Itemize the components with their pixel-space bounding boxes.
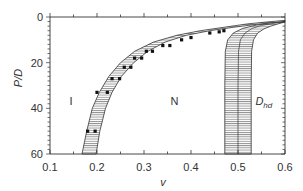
data-point-marker bbox=[106, 91, 109, 94]
x-tick-label: 0.6 bbox=[277, 161, 292, 173]
phase-diagram-chart: 0.10.20.30.40.50.60204060vP/DINDhd bbox=[0, 0, 303, 191]
x-axis-title: v bbox=[160, 176, 167, 188]
hatched-band bbox=[82, 20, 285, 154]
data-point-marker bbox=[161, 44, 164, 47]
data-point-marker bbox=[94, 130, 97, 133]
y-axis-title: P/D bbox=[12, 69, 24, 87]
y-tick-label: 0 bbox=[37, 11, 43, 23]
data-point-marker bbox=[86, 130, 89, 133]
data-point-marker bbox=[118, 77, 121, 80]
region-label: Dhd bbox=[255, 95, 272, 110]
data-point-marker bbox=[129, 66, 132, 69]
data-point-marker bbox=[218, 30, 221, 33]
x-tick-label: 0.4 bbox=[183, 161, 198, 173]
y-tick-label: 60 bbox=[31, 148, 43, 160]
y-tick-label: 20 bbox=[31, 57, 43, 69]
data-point-marker bbox=[140, 57, 143, 60]
data-point-marker bbox=[133, 57, 136, 60]
region-label: I bbox=[70, 95, 73, 107]
data-point-marker bbox=[168, 44, 171, 47]
boundary-bands bbox=[82, 20, 285, 154]
data-point-marker bbox=[208, 31, 211, 34]
x-tick-label: 0.2 bbox=[89, 161, 104, 173]
data-point-marker bbox=[189, 36, 192, 39]
x-tick-label: 0.1 bbox=[42, 161, 57, 173]
data-point-marker bbox=[95, 91, 98, 94]
hatched-band bbox=[225, 22, 285, 154]
data-point-marker bbox=[123, 66, 126, 69]
data-point-marker bbox=[222, 29, 225, 32]
y-tick-label: 40 bbox=[31, 102, 43, 114]
data-point-marker bbox=[110, 77, 113, 80]
data-point-marker bbox=[145, 50, 148, 53]
x-tick-label: 0.5 bbox=[230, 161, 245, 173]
data-point-marker bbox=[151, 50, 154, 53]
region-label: N bbox=[171, 95, 179, 107]
x-tick-label: 0.3 bbox=[136, 161, 151, 173]
data-point-marker bbox=[180, 38, 183, 41]
region-label-subscript: hd bbox=[263, 101, 272, 110]
